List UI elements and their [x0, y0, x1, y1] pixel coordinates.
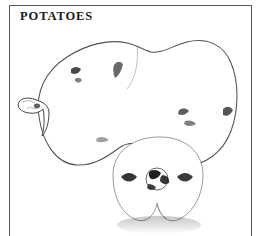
illustration-plate: POTATOES — [0, 0, 262, 236]
small-potato — [104, 130, 214, 234]
page-title: POTATOES — [20, 9, 93, 24]
potatoes-illustration — [9, 5, 252, 236]
potatoes-drawing — [9, 5, 252, 236]
small-potato-shadow — [117, 216, 201, 234]
